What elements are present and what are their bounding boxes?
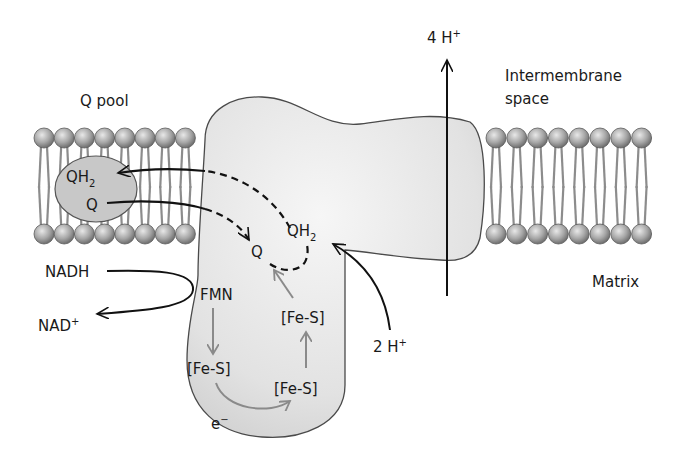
- intermembrane-space-label: Intermembrane: [505, 67, 622, 85]
- nadh-label: NADH: [45, 263, 89, 281]
- fes-cluster-2-label: [Fe-S]: [274, 380, 318, 398]
- fes-cluster-1-label: [Fe-S]: [187, 360, 231, 378]
- four-protons-label: 4 H+: [427, 28, 461, 47]
- electron-label: e−: [211, 414, 229, 433]
- pool-q-label: Q: [86, 196, 98, 214]
- fmn-label: FMN: [200, 286, 233, 304]
- complex-i-diagram: Q pool 4 H+ Intermembrane space Matrix Q…: [0, 0, 675, 461]
- q-pool-label: Q pool: [80, 92, 129, 110]
- nad-label: NAD+: [38, 316, 79, 335]
- membrane-right: [486, 128, 652, 244]
- intermembrane-space-label-2: space: [505, 90, 549, 108]
- matrix-label: Matrix: [592, 273, 639, 291]
- two-protons-label: 2 H+: [373, 337, 407, 356]
- complex-i-protein: [187, 97, 484, 437]
- site-q-label: Q: [251, 243, 263, 261]
- nadh-oxidation-arrow: [97, 271, 193, 314]
- fes-cluster-3-label: [Fe-S]: [281, 309, 325, 327]
